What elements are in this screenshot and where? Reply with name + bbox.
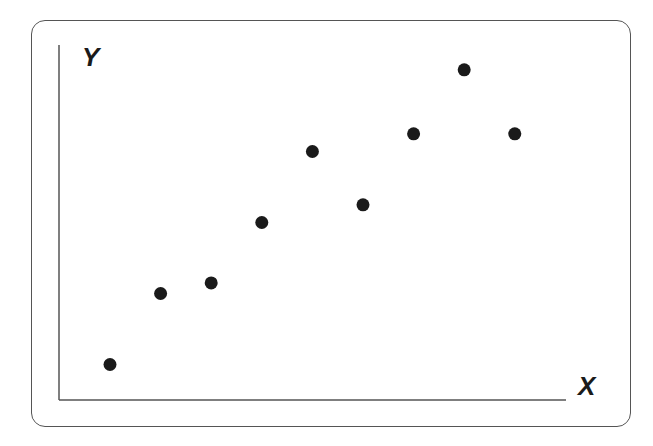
data-point: [508, 127, 521, 140]
data-point: [104, 358, 117, 371]
data-point: [458, 63, 471, 76]
x-axis-label: X: [578, 371, 595, 402]
data-point: [255, 216, 268, 229]
data-point: [306, 145, 319, 158]
data-points: [104, 63, 522, 371]
data-point: [154, 287, 167, 300]
data-point: [407, 127, 420, 140]
y-axis-label: Y: [82, 42, 99, 73]
data-point: [205, 276, 218, 289]
data-point: [357, 198, 370, 211]
